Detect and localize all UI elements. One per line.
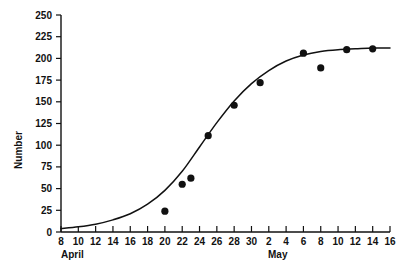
y-axis-ticks — [56, 15, 61, 232]
y-axis-tick-labels: 0255075100125150175200225250 — [35, 10, 52, 238]
data-point — [161, 208, 168, 215]
y-tick-label: 200 — [35, 53, 52, 64]
y-tick-label: 150 — [35, 96, 52, 107]
x-tick-label: 12 — [90, 236, 102, 247]
data-point — [317, 64, 324, 71]
x-tick-label: 6 — [301, 236, 307, 247]
y-tick-label: 175 — [35, 75, 52, 86]
x-tick-label: 20 — [159, 236, 171, 247]
y-tick-label: 225 — [35, 31, 52, 42]
x-tick-label: 14 — [367, 236, 379, 247]
data-point — [300, 50, 307, 57]
y-tick-label: 100 — [35, 140, 52, 151]
x-axis-tick-labels: 81012141618202224262830246810121416 — [58, 236, 396, 247]
x-tick-label: 16 — [125, 236, 137, 247]
month-label-may: May — [268, 249, 288, 260]
data-point — [231, 102, 238, 109]
y-tick-label: 250 — [35, 10, 52, 21]
y-axis-group: 0255075100125150175200225250 — [35, 10, 61, 238]
y-tick-label: 25 — [41, 205, 53, 216]
x-tick-label: 8 — [58, 236, 64, 247]
data-point — [205, 132, 212, 139]
x-tick-label: 18 — [142, 236, 154, 247]
x-tick-label: 28 — [229, 236, 241, 247]
x-tick-label: 22 — [177, 236, 189, 247]
data-point — [369, 45, 376, 52]
x-tick-label: 14 — [107, 236, 119, 247]
x-tick-label: 4 — [283, 236, 289, 247]
y-tick-label: 75 — [41, 161, 53, 172]
x-axis-ticks — [61, 226, 390, 232]
x-tick-label: 26 — [211, 236, 223, 247]
chart-container: 0255075100125150175200225250 81012141618… — [0, 0, 405, 278]
data-point — [257, 79, 264, 86]
data-point — [179, 181, 186, 188]
x-tick-label: 2 — [266, 236, 272, 247]
data-point — [343, 46, 350, 53]
x-axis-group: 81012141618202224262830246810121416 — [58, 226, 396, 247]
x-tick-label: 16 — [384, 236, 396, 247]
data-point — [187, 175, 194, 182]
y-tick-label: 50 — [41, 183, 53, 194]
month-label-april: April — [61, 249, 84, 260]
x-tick-label: 12 — [350, 236, 362, 247]
fitted-curve — [61, 48, 390, 229]
x-tick-label: 8 — [318, 236, 324, 247]
x-tick-label: 30 — [246, 236, 258, 247]
y-tick-label: 0 — [46, 227, 52, 238]
x-tick-label: 24 — [194, 236, 206, 247]
y-tick-label: 125 — [35, 118, 52, 129]
x-tick-label: 10 — [332, 236, 344, 247]
sigmoid-growth-chart: 0255075100125150175200225250 81012141618… — [0, 0, 405, 278]
x-tick-label: 10 — [73, 236, 85, 247]
y-axis-title: Number — [13, 131, 24, 169]
